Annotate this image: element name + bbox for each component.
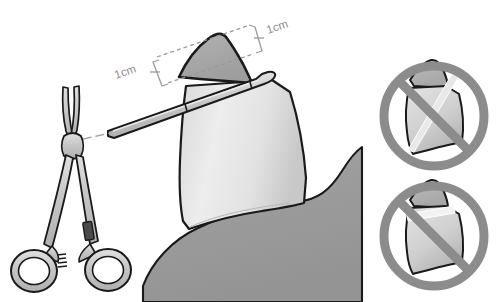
prohibited-example-1	[384, 60, 484, 166]
figure-canvas: 1cm 1cm	[0, 0, 502, 302]
forceps-hinge	[62, 133, 84, 159]
main-illustration: 1cm 1cm	[11, 17, 362, 302]
forceps-jaw-right	[71, 86, 79, 139]
forceps-shank-left	[44, 155, 73, 248]
forceps-ratchet-lock	[83, 221, 95, 240]
illustration-root: 1cm 1cm	[0, 0, 502, 302]
hemostat-forceps	[11, 86, 131, 292]
forceps-ring-left	[11, 246, 59, 292]
dimension-label-top-right: 1cm	[265, 17, 290, 36]
dimension-label-left: 1cm	[113, 62, 138, 81]
dimension-bracket-left	[153, 60, 168, 86]
dimension-bracket-right	[249, 25, 262, 53]
forceps-ring-right	[79, 244, 131, 291]
prohibited-example-2	[384, 180, 484, 286]
